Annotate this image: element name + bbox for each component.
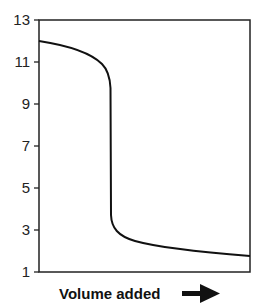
titration-curve-line	[39, 41, 250, 256]
titration-chart: 135791113 Volume added	[0, 0, 259, 307]
y-tick-label: 5	[22, 179, 30, 196]
plot-frame	[39, 20, 250, 272]
y-tick-label: 13	[13, 11, 30, 28]
y-tick-label: 3	[22, 221, 30, 238]
y-tick-label: 1	[22, 263, 30, 280]
arrow-right-icon	[182, 284, 220, 303]
y-tick-label: 9	[22, 95, 30, 112]
x-axis-label: Volume added	[59, 285, 160, 302]
y-tick-label: 11	[14, 53, 30, 70]
y-axis-labels: 135791113	[13, 11, 30, 280]
y-tick-label: 7	[22, 137, 30, 154]
